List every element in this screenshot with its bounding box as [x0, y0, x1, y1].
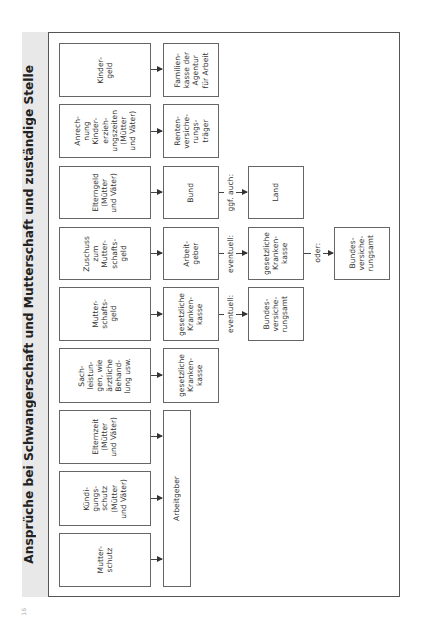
connector-label: eventuell: — [224, 287, 236, 341]
arrow-icon — [151, 559, 162, 560]
authority-rentenversicherung: Renten- versiche- rungs- träger — [163, 104, 219, 158]
authority-label: Arbeit- geber — [182, 241, 200, 267]
authority-familienkasse: Familien- kasse der Agentur für Arbeit — [163, 43, 219, 97]
claim-anrechnung: Anrech- nung Kinder- erzieh- ungszeiten … — [59, 104, 151, 158]
authority-label: gesetzliche Kranken- kasse — [177, 354, 205, 397]
claim-elternzeit: Elternzeit (Mütter und Väter) — [59, 410, 151, 464]
claim-label: Kündi- gungs- schutz (Mütter und Väter) — [82, 479, 128, 519]
claim-label: Zuschuss zum Mutter- schafts- geld — [82, 236, 128, 272]
authority-label: Renten- versiche- rungs- träger — [173, 114, 210, 149]
connector-label: eventuell: — [224, 227, 236, 280]
arrow-icon — [151, 498, 162, 499]
claim-label: Elternzeit (Mütter und Väter) — [91, 417, 119, 457]
authority-krankenkasse-zuschuss: gesetzliche Kranken- kasse — [248, 227, 304, 280]
authority-krankenkasse-sachleistungen: gesetzliche Kranken- kasse — [163, 348, 219, 403]
claim-label: Kinder- geld — [96, 57, 114, 84]
diagram-title: Ansprüche bei Schwangerschaft und Mutter… — [22, 32, 49, 597]
arrow-icon — [151, 314, 162, 315]
claim-kindergeld: Kinder- geld — [59, 43, 151, 97]
arrow-icon — [151, 436, 162, 437]
claim-sachleistungen: Sach- leistun- gen, wie ärztliche Behand… — [59, 348, 151, 403]
claim-mutterschaftsgeld: Mutter- schafts- geld — [59, 287, 151, 341]
page-number: 16 — [17, 604, 29, 620]
authority-label: Bundes- versiche- rungsamt — [262, 296, 290, 333]
arrow-icon — [151, 131, 162, 132]
authority-label: Land — [271, 183, 280, 202]
authority-label: gesetzliche Kranken- kasse — [177, 293, 205, 336]
claim-mutterschutz: Mutter- schutz — [59, 533, 151, 587]
authority-arbeitgeber-shared: Arbeitgeber — [163, 410, 191, 587]
connector-label: ggf. auch: — [224, 166, 236, 219]
diagram-title-text: Ansprüche bei Schwangerschaft und Mutter… — [22, 65, 36, 564]
claim-label: Sach- leistun- gen, wie ärztliche Behand… — [77, 358, 132, 394]
authority-label: Bund — [186, 183, 195, 203]
authority-bva-zuschuss: Bundes- versiche- rungsamt — [334, 227, 390, 280]
claim-label: Mutter- schutz — [96, 546, 114, 573]
authority-arbeitgeber-zuschuss: Arbeit- geber — [163, 227, 219, 280]
arrow-icon — [151, 192, 162, 193]
claim-kuendigungsschutz: Kündi- gungs- schutz (Mütter und Väter) — [59, 471, 151, 526]
arrow-icon — [151, 253, 162, 254]
authority-label: Bundes- versiche- rungsamt — [348, 235, 376, 272]
claim-label: Elterngeld (Mütter und Väter) — [91, 173, 119, 213]
claim-zuschuss: Zuschuss zum Mutter- schafts- geld — [59, 227, 151, 280]
authority-bva-mutterschaftsgeld: Bundes- versiche- rungsamt — [248, 287, 304, 341]
claim-elterngeld: Elterngeld (Mütter und Väter) — [59, 166, 151, 219]
authority-land: Land — [248, 166, 304, 219]
authority-label: Arbeitgeber — [172, 476, 181, 521]
claim-label: Anrech- nung Kinder- erzieh- ungszeiten … — [73, 110, 137, 152]
arrow-icon — [151, 375, 162, 376]
authority-label: gesetzliche Kranken- kasse — [262, 232, 290, 275]
authority-bund: Bund — [163, 166, 219, 219]
authority-label: Familien- kasse der Agentur für Arbeit — [173, 52, 210, 89]
connector-label: oder: — [311, 235, 323, 271]
arrow-icon — [151, 69, 162, 70]
claim-label: Mutter- schafts- geld — [91, 299, 119, 329]
authority-krankenkasse-mutterschaftsgeld: gesetzliche Kranken- kasse — [163, 287, 219, 341]
